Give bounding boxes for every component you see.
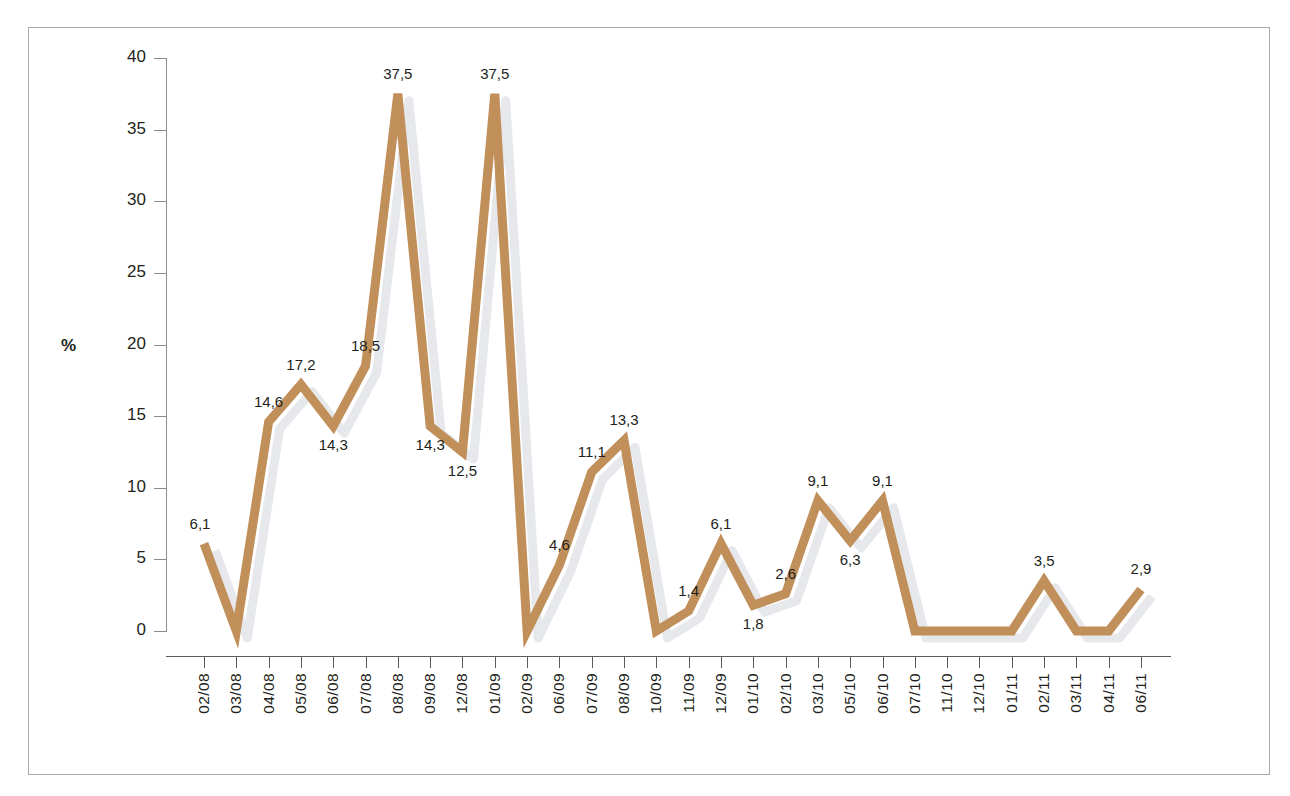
- data-point-label: 6,1: [190, 515, 211, 532]
- data-point-label: 14,3: [416, 436, 445, 453]
- data-point-label: 11,1: [578, 443, 606, 460]
- data-point-label: 1,8: [743, 615, 764, 632]
- chart-page: % 0510152025303540 02/0803/0804/0805/080…: [0, 0, 1290, 796]
- data-point-label: 13,3: [609, 411, 638, 428]
- line-series-plot: [29, 28, 1271, 776]
- data-point-label: 2,6: [775, 565, 796, 582]
- data-point-label: 37,5: [480, 65, 509, 82]
- data-point-label: 6,1: [711, 515, 732, 532]
- data-point-label: 14,6: [254, 393, 283, 410]
- data-point-label: 37,5: [383, 65, 412, 82]
- data-point-label: 17,2: [286, 356, 315, 373]
- data-point-label: 4,6: [549, 536, 570, 553]
- data-point-label: 2,9: [1131, 560, 1152, 577]
- figure-frame: % 0510152025303540 02/0803/0804/0805/080…: [28, 27, 1270, 775]
- data-point-label: 3,5: [1034, 552, 1055, 569]
- data-point-label: 12,5: [448, 462, 477, 479]
- data-point-label: 18,5: [351, 337, 380, 354]
- data-point-label: 9,1: [872, 472, 893, 489]
- data-point-label: 14,3: [319, 436, 348, 453]
- line-series-path: [204, 94, 1141, 631]
- data-point-label: 6,3: [840, 551, 861, 568]
- data-point-label: 1,4: [678, 582, 699, 599]
- data-point-label: 9,1: [807, 472, 828, 489]
- line-series-shadow: [215, 101, 1152, 638]
